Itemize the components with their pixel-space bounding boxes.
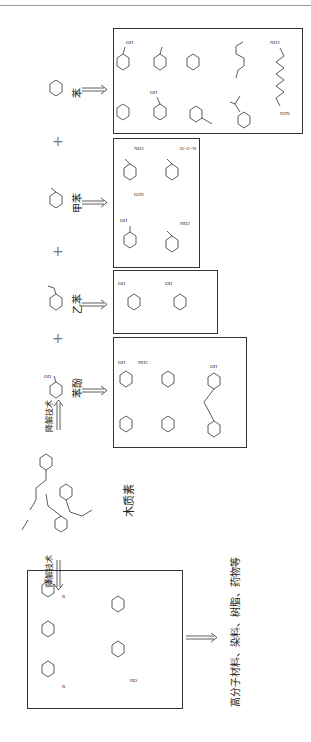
lignin-structure <box>22 454 92 532</box>
svg-text:R: R <box>62 594 66 599</box>
svg-text:HO: HO <box>130 678 138 683</box>
svg-text:NH2: NH2 <box>138 360 148 365</box>
svg-text:NH2: NH2 <box>270 40 280 45</box>
svg-text:OH: OH <box>120 218 128 223</box>
svg-text:O=C=N: O=C=N <box>180 146 197 151</box>
svg-text:OH: OH <box>210 364 218 369</box>
svg-text:OH: OH <box>150 90 158 95</box>
arrow-degradation-up <box>54 400 63 430</box>
svg-text:R: R <box>62 684 66 689</box>
svg-text:OH: OH <box>44 578 52 583</box>
svg-text:OH: OH <box>118 281 126 286</box>
svg-text:H2N: H2N <box>280 111 290 116</box>
svg-text:NO2: NO2 <box>134 146 144 151</box>
chemical-structures: OH NH2 OH H2N NO2 O2N O=C=N OH NH2 OH OH… <box>0 0 311 742</box>
svg-text:NH2: NH2 <box>180 221 190 226</box>
svg-text:OH: OH <box>126 40 134 45</box>
svg-text:O2N: O2N <box>134 192 144 197</box>
arrow-phenol <box>82 386 107 395</box>
arrow-benzene <box>82 85 107 94</box>
arrow-degradation-down <box>54 560 63 590</box>
arrow-toluene <box>82 198 107 207</box>
benzene-ring <box>50 80 62 96</box>
arrow-ethylbenzene <box>82 300 107 309</box>
arrow-final <box>186 633 217 642</box>
svg-text:OH: OH <box>165 281 173 286</box>
svg-text:OH: OH <box>44 374 52 379</box>
svg-text:OH: OH <box>118 360 126 365</box>
